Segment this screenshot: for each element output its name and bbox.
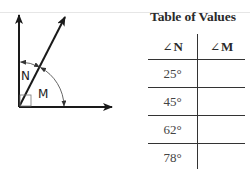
table-row: 45°	[148, 88, 245, 116]
cell-angle-n: 62°	[148, 116, 198, 144]
cell-angle-n: 45°	[148, 88, 198, 116]
table-of-values: Table of Values ∠N ∠M 25° 45° 62° 78°	[148, 9, 248, 25]
header-angle-n: ∠N	[148, 34, 198, 60]
values-table: ∠N ∠M 25° 45° 62° 78°	[148, 34, 245, 169]
header-angle-n-label: N	[174, 39, 183, 54]
cell-angle-m	[198, 88, 245, 116]
cell-angle-m	[198, 144, 245, 170]
angle-n-label: N	[21, 69, 30, 83]
angle-diagram: N M	[0, 0, 140, 169]
cell-angle-m	[198, 60, 245, 88]
angle-n-arc	[21, 62, 40, 67]
cell-angle-m	[198, 116, 245, 144]
header-angle-m-label: M	[221, 39, 233, 54]
table-title: Table of Values	[150, 9, 248, 25]
cell-angle-n: 78°	[148, 144, 198, 170]
angle-symbol-icon: ∠	[162, 40, 172, 54]
header-angle-m: ∠M	[198, 34, 245, 60]
table-row: 78°	[148, 144, 245, 170]
table-row: 62°	[148, 116, 245, 144]
table-header-row: ∠N ∠M	[148, 34, 245, 60]
table-row: 25°	[148, 60, 245, 88]
angle-m-label: M	[38, 87, 48, 101]
angle-symbol-icon: ∠	[210, 40, 220, 54]
cell-angle-n: 25°	[148, 60, 198, 88]
